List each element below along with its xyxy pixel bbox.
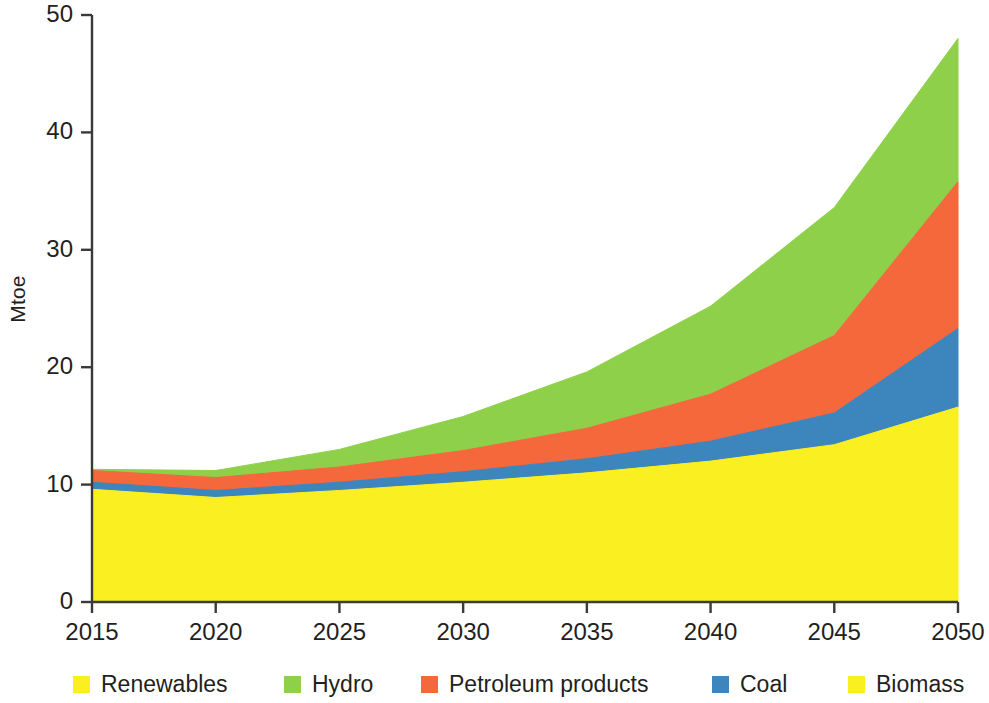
legend-item-renewables[interactable]: Renewables bbox=[73, 666, 228, 703]
legend-swatch-icon bbox=[284, 676, 301, 693]
x-axis-tick-label: 2025 bbox=[279, 620, 399, 644]
legend-label: Biomass bbox=[876, 673, 964, 696]
legend-label: Renewables bbox=[101, 673, 228, 696]
stacked-area-chart bbox=[0, 0, 982, 660]
chart-legend: RenewablesHydroPetroleum productsCoalBio… bbox=[0, 666, 982, 703]
y-axis-tick-label: 0 bbox=[17, 589, 73, 613]
legend-label: Petroleum products bbox=[449, 673, 648, 696]
y-axis-tick-label: 40 bbox=[17, 119, 73, 143]
y-axis-tick-label: 30 bbox=[17, 237, 73, 261]
y-axis-tick-label: 50 bbox=[17, 2, 73, 26]
legend-item-biomass[interactable]: Biomass bbox=[848, 666, 964, 703]
x-axis-tick-label: 2045 bbox=[774, 620, 894, 644]
legend-swatch-icon bbox=[848, 676, 865, 693]
x-axis-tick-label: 2050 bbox=[898, 620, 989, 644]
legend-swatch-icon bbox=[73, 676, 90, 693]
legend-item-petroleum-products[interactable]: Petroleum products bbox=[421, 666, 648, 703]
legend-item-coal[interactable]: Coal bbox=[712, 666, 787, 703]
x-axis-tick-label: 2020 bbox=[156, 620, 276, 644]
y-axis-tick-label: 10 bbox=[17, 472, 73, 496]
x-axis-tick-label: 2015 bbox=[32, 620, 152, 644]
legend-swatch-icon bbox=[712, 676, 729, 693]
legend-label: Hydro bbox=[312, 673, 373, 696]
legend-label: Coal bbox=[740, 673, 787, 696]
y-axis-tick-label: 20 bbox=[17, 354, 73, 378]
legend-item-hydro[interactable]: Hydro bbox=[284, 666, 373, 703]
x-axis-tick-label: 2040 bbox=[651, 620, 771, 644]
x-axis-tick-label: 2030 bbox=[403, 620, 523, 644]
x-axis-tick-label: 2035 bbox=[527, 620, 647, 644]
y-axis-title: Mtoe bbox=[6, 259, 30, 339]
legend-swatch-icon bbox=[421, 676, 438, 693]
plot-area: Mtoe 01020304050 20152020202520302035204… bbox=[0, 0, 982, 660]
